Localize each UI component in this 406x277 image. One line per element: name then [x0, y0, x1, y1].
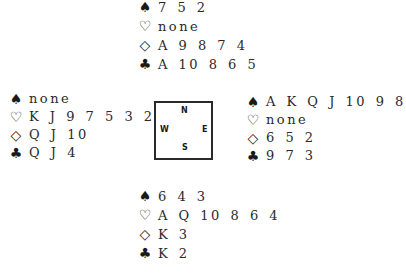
compass-east-label: E: [202, 125, 207, 134]
west-hearts-line: ♡ K J 9 7 5 3 2: [8, 108, 155, 126]
north-clubs: A 10 8 6 5: [158, 55, 258, 74]
west-clubs: Q J 4: [29, 144, 78, 162]
north-hearts-line: ♡ none: [137, 17, 258, 36]
east-diamonds: 6 5 2: [266, 129, 316, 147]
south-spades: 6 4 3: [158, 187, 208, 206]
diamond-icon: ◇: [137, 225, 153, 244]
north-diamonds: A 9 8 7 4: [158, 36, 248, 55]
north-spades: 7 5 2: [158, 0, 208, 17]
east-hand: ♠ A K Q J 10 9 8 ♡ none ◇ 6 5 2 ♣ 9 7 3: [245, 93, 406, 165]
compass-south-label: S: [182, 143, 188, 152]
heart-icon: ♡: [8, 108, 24, 126]
diamond-icon: ◇: [137, 36, 153, 55]
west-hand: ♠ none ♡ K J 9 7 5 3 2 ◇ Q J 10 ♣ Q J 4: [8, 90, 155, 162]
compass-west-label: W: [160, 125, 169, 134]
south-hearts-line: ♡ A Q 10 8 6 4: [137, 206, 280, 225]
diamond-icon: ◇: [245, 129, 261, 147]
compass-north-label: N: [181, 106, 188, 115]
west-hearts: K J 9 7 5 3 2: [29, 108, 155, 126]
south-diamonds: K 3: [158, 225, 190, 244]
south-clubs-line: ♣ K 2: [137, 244, 280, 263]
club-icon: ♣: [137, 244, 153, 263]
west-spades: none: [29, 90, 71, 108]
east-spades: A K Q J 10 9 8: [266, 93, 406, 111]
east-hearts-line: ♡ none: [245, 111, 406, 129]
south-spades-line: ♠ 6 4 3: [137, 187, 280, 206]
club-icon: ♣: [8, 144, 24, 162]
north-hand: ♠ 7 5 2 ♡ none ◇ A 9 8 7 4 ♣ A 10 8 6 5: [137, 0, 258, 74]
south-hand: ♠ 6 4 3 ♡ A Q 10 8 6 4 ◇ K 3 ♣ K 2: [137, 187, 280, 263]
club-icon: ♣: [137, 55, 153, 74]
spade-icon: ♠: [8, 90, 24, 108]
north-hearts: none: [158, 17, 200, 36]
west-diamonds: Q J 10: [29, 126, 89, 144]
west-diamonds-line: ◇ Q J 10: [8, 126, 155, 144]
south-hearts: A Q 10 8 6 4: [158, 206, 280, 225]
spade-icon: ♠: [137, 0, 153, 17]
club-icon: ♣: [245, 147, 261, 165]
heart-icon: ♡: [137, 206, 153, 225]
spade-icon: ♠: [245, 93, 261, 111]
south-clubs: K 2: [158, 244, 190, 263]
south-diamonds-line: ◇ K 3: [137, 225, 280, 244]
east-clubs: 9 7 3: [266, 147, 316, 165]
diamond-icon: ◇: [8, 126, 24, 144]
east-spades-line: ♠ A K Q J 10 9 8: [245, 93, 406, 111]
compass-box: N W E S: [154, 101, 213, 160]
north-spades-line: ♠ 7 5 2: [137, 0, 258, 17]
east-clubs-line: ♣ 9 7 3: [245, 147, 406, 165]
east-diamonds-line: ◇ 6 5 2: [245, 129, 406, 147]
west-clubs-line: ♣ Q J 4: [8, 144, 155, 162]
east-hearts: none: [266, 111, 308, 129]
north-clubs-line: ♣ A 10 8 6 5: [137, 55, 258, 74]
west-spades-line: ♠ none: [8, 90, 155, 108]
heart-icon: ♡: [137, 17, 153, 36]
north-diamonds-line: ◇ A 9 8 7 4: [137, 36, 258, 55]
heart-icon: ♡: [245, 111, 261, 129]
spade-icon: ♠: [137, 187, 153, 206]
